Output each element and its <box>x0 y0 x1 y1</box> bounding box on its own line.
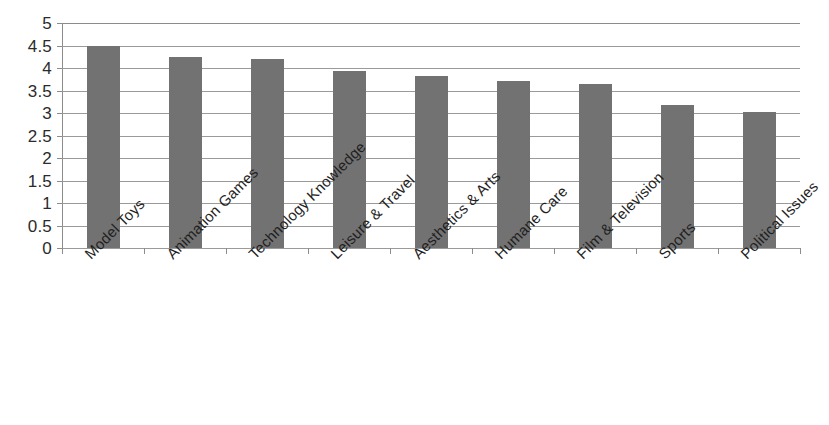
y-axis-tick <box>57 91 62 92</box>
y-tick-label: 3.5 <box>28 82 52 99</box>
y-tick-label: 2 <box>42 150 52 167</box>
y-tick-label: 0 <box>42 240 52 257</box>
y-tick-label: 4.5 <box>28 37 52 54</box>
y-tick-label: 0.5 <box>28 217 52 234</box>
plot-area <box>62 23 800 248</box>
y-axis-tick <box>57 226 62 227</box>
bars-layer <box>62 23 800 248</box>
y-axis-tick <box>57 136 62 137</box>
y-axis-tick <box>57 23 62 24</box>
bar-chart: 54.543.532.521.510.50 Model ToysAnimatio… <box>0 0 829 425</box>
y-tick-label: 5 <box>42 15 52 32</box>
y-axis-tick <box>57 203 62 204</box>
y-tick-label: 4 <box>42 60 52 77</box>
y-tick-label: 3 <box>42 105 52 122</box>
y-axis-tick <box>57 181 62 182</box>
y-axis-tick <box>57 158 62 159</box>
y-axis-tick <box>57 113 62 114</box>
y-axis: 54.543.532.521.510.50 <box>0 0 60 425</box>
y-tick-label: 1.5 <box>28 172 52 189</box>
y-tick-label: 2.5 <box>28 127 52 144</box>
x-axis-category-labels: Model ToysAnimation GamesTechnology Know… <box>62 250 829 425</box>
y-axis-tick <box>57 68 62 69</box>
y-tick-label: 1 <box>42 195 52 212</box>
y-axis-tick <box>57 46 62 47</box>
